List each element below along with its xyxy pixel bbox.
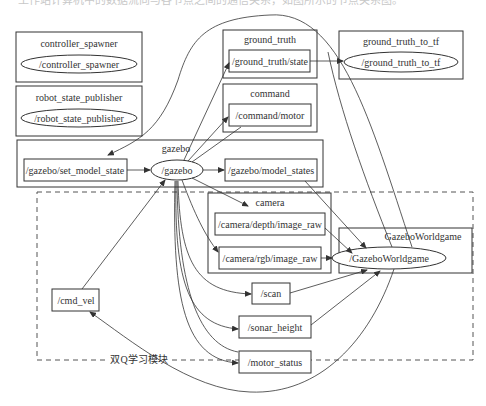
svg-text:/GazeboWorldgame: /GazeboWorldgame <box>349 253 429 264</box>
module-label: 双Q学习模块 <box>110 353 167 365</box>
topic-gazebo-set-model-state[interactable]: /gazebo/set_model_state <box>24 159 127 181</box>
topic-camera-depth-image-raw[interactable]: /camera/depth/image_raw <box>215 213 325 235</box>
svg-text:/ground_truth_to_tf: /ground_truth_to_tf <box>362 57 442 68</box>
cluster-command: command /command/motor <box>223 84 317 132</box>
svg-text:/command/motor: /command/motor <box>236 110 306 121</box>
cluster-ground-truth-to-tf: ground_truth_to_tf /ground_truth_to_tf <box>339 31 463 79</box>
svg-text:/ground_truth/state: /ground_truth/state <box>232 56 309 67</box>
svg-text:/gazebo/set_model_state: /gazebo/set_model_state <box>26 165 125 176</box>
topic-ground-truth-state[interactable]: /ground_truth/state <box>229 50 310 72</box>
cluster-label-ground-truth: ground_truth <box>244 34 296 45</box>
svg-text:/motor_status: /motor_status <box>248 357 303 368</box>
topic-scan[interactable]: /scan <box>252 283 290 304</box>
svg-text:/scan: /scan <box>261 288 282 299</box>
cluster-label-ground-truth-to-tf: ground_truth_to_tf <box>363 36 440 47</box>
cluster-label-robot-state-publisher: robot_state_publisher <box>36 92 123 103</box>
cluster-gazebo: gazebo /gazebo/set_model_state /gazebo /… <box>17 140 323 187</box>
node-gazebo[interactable]: /gazebo <box>151 160 203 180</box>
topic-gazebo-model-states[interactable]: /gazebo/model_states <box>225 159 317 181</box>
cluster-controller-spawner: controller_spawner /controller_spawner <box>16 32 142 82</box>
cluster-camera: camera /camera/depth/image_raw /camera/r… <box>208 193 331 273</box>
cluster-label-controller-spawner: controller_spawner <box>40 38 118 49</box>
topic-motor-status[interactable]: /motor_status <box>239 351 311 373</box>
svg-text:/gazebo/model_states: /gazebo/model_states <box>228 165 314 176</box>
topic-camera-rgb-image-raw[interactable]: /camera/rgb/image_raw <box>219 247 321 269</box>
node-robot-state-publisher[interactable]: /robot_state_publisher <box>21 109 137 127</box>
cluster-label-camera: camera <box>256 197 285 208</box>
cluster-gazebo-worldgame: GazeboWorldgame /GazeboWorldgame <box>332 228 472 273</box>
node-ground-truth-to-tf[interactable]: /ground_truth_to_tf <box>344 52 458 72</box>
svg-text:/cmd_vel: /cmd_vel <box>57 295 94 306</box>
cluster-label-command: command <box>250 88 289 99</box>
svg-text:/gazebo: /gazebo <box>161 165 192 176</box>
svg-text:/controller_spawner: /controller_spawner <box>39 59 120 70</box>
svg-text:/robot_state_publisher: /robot_state_publisher <box>34 113 124 124</box>
cluster-label-gazebo: gazebo <box>162 143 190 154</box>
svg-text:/sonar_height: /sonar_height <box>248 322 303 333</box>
topic-cmd-vel[interactable]: /cmd_vel <box>52 289 99 311</box>
top-caption-clipped: 工作站计算机中的数据流向与各节点之间的通信关系，如图所示的节点关系图。 <box>18 0 403 6</box>
ros-node-graph: 工作站计算机中的数据流向与各节点之间的通信关系，如图所示的节点关系图。 cont… <box>0 0 486 406</box>
cluster-label-gazebo-worldgame: GazeboWorldgame <box>385 231 463 242</box>
cluster-robot-state-publisher: robot_state_publisher /robot_state_publi… <box>16 86 142 136</box>
topic-sonar-height[interactable]: /sonar_height <box>239 316 311 338</box>
svg-text:/camera/depth/image_raw: /camera/depth/image_raw <box>218 219 323 230</box>
svg-text:/camera/rgb/image_raw: /camera/rgb/image_raw <box>223 253 319 264</box>
cluster-ground-truth: ground_truth /ground_truth/state <box>223 30 317 78</box>
topic-command-motor[interactable]: /command/motor <box>229 104 311 126</box>
node-controller-spawner[interactable]: /controller_spawner <box>21 55 137 73</box>
